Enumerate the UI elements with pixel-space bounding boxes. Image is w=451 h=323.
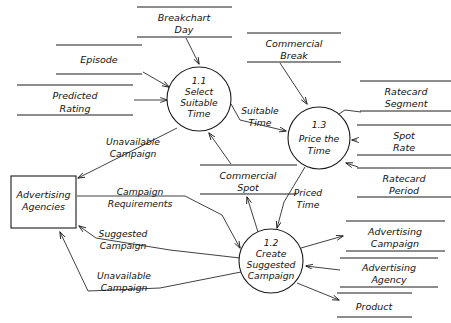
- datastore-predicted-rating-line2: Rating: [60, 103, 91, 114]
- flow-label-unavailable-campaign-2: Unavailable Campaign: [97, 270, 151, 293]
- process-1-3-number: 1.3: [312, 119, 327, 130]
- process-1-2-number: 1.2: [264, 237, 279, 248]
- datastore-commercial-spot-line1: Commercial: [219, 170, 276, 181]
- flow-label-suitable-time-line2: Time: [249, 117, 272, 128]
- datastore-ratecard-segment[interactable]: Ratecard Segment: [385, 86, 429, 109]
- datastore-ratecard-period-line1: Ratecard: [383, 173, 427, 184]
- process-1-1-line1: Select: [185, 86, 214, 97]
- entity-advertising-agencies[interactable]: Advertising Agencies: [11, 176, 76, 228]
- datastore-commercial-spot[interactable]: Commercial Spot: [219, 170, 276, 193]
- flow-advertising-agency-to-create: [306, 266, 340, 270]
- dfd-svg: 1.1 Select Suitable Time 1.3 Price the T…: [0, 0, 451, 323]
- flow-label-campaign-requirements: Campaign Requirements: [108, 186, 173, 209]
- datastore-product[interactable]: Product: [356, 301, 394, 312]
- process-1-1[interactable]: 1.1 Select Suitable Time: [167, 67, 231, 131]
- datastore-spot-rate-line2: Rate: [393, 142, 415, 153]
- datastore-advertising-campaign-line1: Advertising: [367, 226, 422, 237]
- flow-unavailable-campaign-create-to-agencies: [60, 232, 241, 291]
- flow-episode-to-select: [143, 72, 169, 87]
- flow-label-campaign-requirements-line1: Campaign: [117, 186, 164, 197]
- datastore-predicted-rating[interactable]: Predicted Rating: [53, 90, 99, 114]
- flow-create-to-product: [297, 283, 339, 300]
- datastore-ratecard-period[interactable]: Ratecard Period: [383, 173, 427, 196]
- flow-label-unavailable-campaign-2-line2: Campaign: [101, 282, 148, 293]
- flow-label-suggested-campaign: Suggested Campaign: [99, 228, 148, 251]
- datastore-commercial-break-line1: Commercial: [265, 38, 322, 49]
- datastore-spot-rate[interactable]: Spot Rate: [393, 130, 416, 153]
- process-1-1-number: 1.1: [192, 75, 207, 86]
- flow-label-priced-time-line2: Time: [297, 199, 320, 210]
- flow-label-suitable-time: Suitable Time: [241, 105, 279, 128]
- datastore-advertising-campaign-line2: Campaign: [371, 238, 419, 249]
- process-1-1-line3: Time: [188, 108, 211, 119]
- datastore-episode[interactable]: Episode: [80, 54, 117, 65]
- flow-label-unavailable-campaign-1: Unavailable Campaign: [106, 136, 160, 159]
- process-1-2[interactable]: 1.2 Create Suggested Campaign: [239, 229, 303, 293]
- process-1-1-line2: Suitable: [180, 97, 218, 108]
- dfd-canvas: 1.1 Select Suitable Time 1.3 Price the T…: [0, 0, 451, 323]
- datastore-advertising-agency[interactable]: Advertising Agency: [361, 262, 416, 285]
- datastore-breakchart-day-line2: Day: [175, 24, 194, 35]
- flow-commercial-spot-to-select: [209, 133, 231, 164]
- flow-create-to-advertising-campaign: [301, 236, 343, 248]
- flow-create-to-commercial-spot: [247, 197, 258, 232]
- datastore-commercial-break-line2: Break: [280, 50, 308, 61]
- process-1-3-line2: Time: [308, 145, 331, 156]
- entity-advertising-agencies-line2: Agencies: [21, 201, 65, 212]
- process-1-3-line1: Price the: [299, 133, 340, 144]
- flow-commercial-break-to-price: [280, 63, 307, 104]
- datastore-predicted-rating-line1: Predicted: [53, 90, 99, 101]
- flow-label-unavailable-campaign-1-line1: Unavailable: [106, 136, 160, 147]
- flow-ratecard-period-to-price: [346, 163, 358, 167]
- process-1-2-line3: Campaign: [248, 270, 295, 281]
- flow-label-unavailable-campaign-1-line2: Campaign: [110, 148, 157, 159]
- flow-label-campaign-requirements-line2: Requirements: [108, 198, 173, 209]
- datastore-advertising-agency-line1: Advertising: [361, 262, 416, 273]
- flow-label-priced-time: Priced Time: [294, 187, 323, 210]
- flow-breakchart-day-to-select: [186, 38, 199, 64]
- datastore-breakchart-day-line1: Breakchart: [158, 12, 212, 23]
- datastore-spot-rate-line1: Spot: [393, 130, 416, 141]
- datastore-episode-line1: Episode: [80, 54, 117, 65]
- flow-label-unavailable-campaign-2-line1: Unavailable: [97, 270, 151, 281]
- datastore-commercial-break[interactable]: Commercial Break: [265, 38, 322, 61]
- datastore-advertising-agency-line2: Agency: [370, 274, 407, 285]
- datastore-product-line1: Product: [356, 301, 394, 312]
- flow-label-priced-time-line1: Priced: [294, 187, 323, 198]
- datastore-advertising-campaign[interactable]: Advertising Campaign: [367, 226, 422, 249]
- datastore-ratecard-period-line2: Period: [389, 185, 420, 196]
- datastore-ratecard-segment-line2: Segment: [385, 98, 429, 109]
- datastore-ratecard-segment-line1: Ratecard: [385, 86, 429, 97]
- entity-advertising-agencies-line1: Advertising: [16, 189, 71, 200]
- flow-label-suitable-time-line1: Suitable: [241, 105, 279, 116]
- process-1-3[interactable]: 1.3 Price the Time: [288, 107, 350, 169]
- flow-label-suggested-campaign-line1: Suggested: [99, 228, 148, 239]
- process-1-2-line2: Suggested: [247, 259, 296, 270]
- flow-label-suggested-campaign-line2: Campaign: [100, 240, 147, 251]
- process-1-2-line1: Create: [256, 248, 287, 259]
- datastore-breakchart-day[interactable]: Breakchart Day: [158, 12, 212, 35]
- datastore-commercial-spot-line2: Spot: [237, 182, 260, 193]
